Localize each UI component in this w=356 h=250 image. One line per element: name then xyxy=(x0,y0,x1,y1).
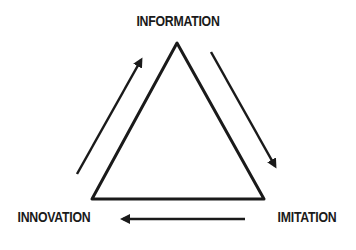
central-triangle xyxy=(92,43,264,199)
arrow-information-to-imitation xyxy=(211,52,275,166)
arrow-innovation-to-information xyxy=(77,60,141,174)
cycle-diagram xyxy=(0,0,356,250)
